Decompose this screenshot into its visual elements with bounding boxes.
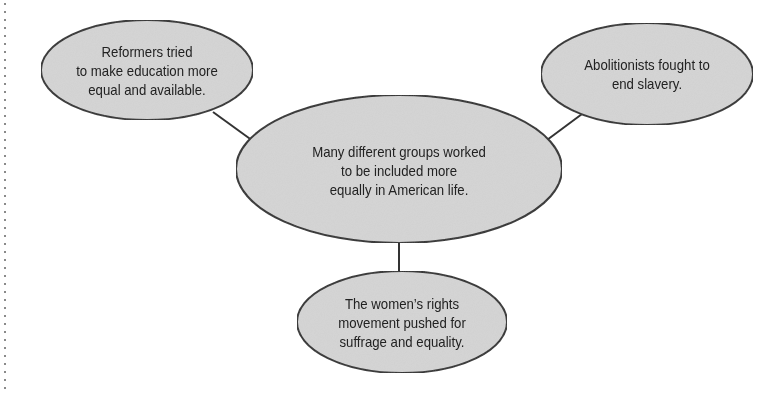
center-node-label: Many different groups worked to be inclu… (293, 130, 504, 210)
node-abolition-text: Abolitionists fought to end slavery. (584, 55, 709, 93)
node-abolition-label: Abolitionists fought to end slavery. (563, 44, 730, 104)
node-womens-rights-label: The women’s rights movement pushed for s… (318, 282, 485, 362)
center-node-text: Many different groups worked to be inclu… (312, 142, 486, 199)
node-education-label: Reformers tried to make education more e… (63, 30, 230, 110)
connector-abolition (547, 114, 582, 140)
connector-education (213, 112, 253, 141)
node-womens-rights-text: The women’s rights movement pushed for s… (338, 294, 466, 351)
node-education-text: Reformers tried to make education more e… (76, 42, 218, 99)
